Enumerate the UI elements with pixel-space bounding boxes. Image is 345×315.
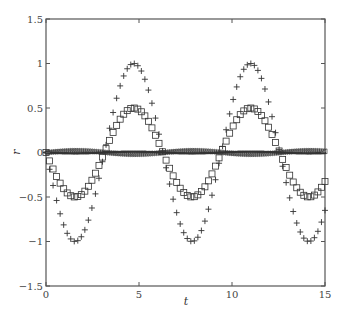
x-tick-label: 15: [319, 289, 332, 300]
x-axis-ticks: 051015: [43, 19, 332, 300]
x-tick-label: 5: [136, 289, 142, 300]
x-axis-label: t: [184, 295, 189, 308]
series-layer: [43, 61, 328, 245]
x-tick-label: 0: [43, 289, 49, 300]
scatter-chart: 051015 −1.5−1−0.500.511.5 t r: [0, 0, 345, 315]
y-tick-label: −1.5: [19, 281, 43, 292]
y-tick-label: 0: [37, 147, 43, 158]
y-tick-label: −0.5: [19, 192, 43, 203]
y-tick-label: 0.5: [27, 103, 43, 114]
y-tick-label: 1.5: [27, 14, 43, 25]
y-tick-label: −1: [28, 236, 43, 247]
y-axis-label: r: [10, 149, 23, 155]
y-tick-label: 1: [37, 58, 43, 69]
x-tick-label: 10: [226, 289, 239, 300]
